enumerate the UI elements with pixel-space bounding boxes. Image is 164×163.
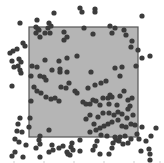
data-point bbox=[79, 9, 84, 14]
data-point bbox=[97, 151, 102, 156]
data-point bbox=[70, 147, 75, 152]
data-point bbox=[20, 154, 25, 159]
data-point bbox=[33, 145, 38, 150]
data-point bbox=[115, 117, 120, 122]
data-point bbox=[36, 137, 41, 142]
data-point bbox=[119, 64, 124, 69]
data-point bbox=[28, 73, 33, 78]
data-point bbox=[128, 44, 133, 49]
data-point bbox=[147, 151, 152, 156]
data-point bbox=[100, 95, 105, 100]
data-point bbox=[28, 98, 33, 103]
data-point bbox=[37, 154, 42, 159]
data-point bbox=[46, 149, 51, 154]
data-point bbox=[120, 141, 125, 146]
data-point bbox=[64, 55, 69, 60]
data-point bbox=[85, 85, 90, 90]
data-point bbox=[138, 148, 143, 153]
data-point bbox=[35, 26, 40, 31]
data-point bbox=[97, 102, 102, 107]
data-point bbox=[7, 50, 12, 55]
axis-ticks bbox=[14, 161, 160, 163]
data-point bbox=[57, 69, 62, 74]
data-point bbox=[106, 101, 111, 106]
data-point bbox=[43, 94, 48, 99]
data-point bbox=[117, 93, 122, 98]
data-point bbox=[48, 23, 53, 28]
data-point bbox=[34, 64, 39, 69]
data-point bbox=[51, 10, 56, 15]
data-point bbox=[38, 90, 43, 95]
data-point bbox=[109, 94, 114, 99]
data-point bbox=[77, 148, 82, 153]
data-point bbox=[92, 9, 97, 14]
data-point bbox=[98, 80, 103, 85]
data-point bbox=[91, 121, 96, 126]
data-point bbox=[87, 129, 92, 134]
data-point bbox=[93, 98, 98, 103]
data-point bbox=[77, 137, 82, 142]
data-point bbox=[119, 111, 124, 116]
data-point bbox=[47, 30, 52, 35]
data-point bbox=[61, 29, 66, 34]
data-point bbox=[63, 85, 68, 90]
data-point bbox=[112, 65, 117, 70]
data-point bbox=[94, 138, 99, 143]
data-point bbox=[29, 63, 34, 68]
data-point bbox=[16, 139, 21, 144]
data-point bbox=[122, 133, 127, 138]
data-point bbox=[112, 25, 117, 30]
data-point bbox=[121, 27, 126, 32]
data-point bbox=[128, 136, 133, 141]
data-point bbox=[129, 38, 134, 43]
data-point bbox=[146, 146, 151, 151]
data-point bbox=[153, 125, 158, 130]
data-point bbox=[49, 142, 54, 147]
data-point bbox=[66, 80, 71, 85]
data-point bbox=[95, 114, 100, 119]
data-point bbox=[109, 119, 114, 124]
data-point bbox=[139, 13, 144, 18]
data-point bbox=[74, 90, 79, 95]
data-point bbox=[124, 115, 129, 120]
data-point bbox=[129, 95, 134, 100]
data-point bbox=[64, 69, 69, 74]
data-point bbox=[139, 124, 144, 129]
data-point bbox=[88, 69, 93, 74]
data-point bbox=[90, 147, 95, 152]
data-point bbox=[147, 53, 152, 58]
data-point bbox=[23, 142, 28, 147]
data-point bbox=[148, 133, 153, 138]
data-point bbox=[56, 58, 61, 63]
data-point bbox=[100, 110, 105, 115]
data-point bbox=[107, 23, 112, 28]
data-point bbox=[109, 145, 114, 150]
data-point bbox=[83, 116, 88, 121]
data-point bbox=[147, 157, 152, 162]
data-point bbox=[121, 88, 126, 93]
data-point bbox=[123, 32, 128, 37]
data-point bbox=[106, 151, 111, 156]
data-point bbox=[14, 128, 19, 133]
data-point bbox=[37, 34, 42, 39]
data-point bbox=[90, 31, 95, 36]
data-point bbox=[143, 138, 148, 143]
data-point bbox=[19, 129, 24, 134]
data-point bbox=[98, 132, 103, 137]
data-point bbox=[9, 58, 14, 63]
data-point bbox=[74, 53, 79, 58]
data-point bbox=[65, 151, 70, 156]
data-point bbox=[42, 30, 47, 35]
data-point bbox=[109, 30, 114, 35]
data-point bbox=[42, 57, 47, 62]
data-point bbox=[64, 34, 69, 39]
data-point bbox=[34, 17, 39, 22]
data-point bbox=[56, 145, 61, 150]
data-point bbox=[93, 127, 98, 132]
data-point bbox=[133, 63, 138, 68]
data-point bbox=[15, 121, 20, 126]
data-point bbox=[130, 112, 135, 117]
data-point bbox=[46, 127, 51, 132]
data-point bbox=[43, 77, 48, 82]
data-point bbox=[87, 112, 92, 117]
